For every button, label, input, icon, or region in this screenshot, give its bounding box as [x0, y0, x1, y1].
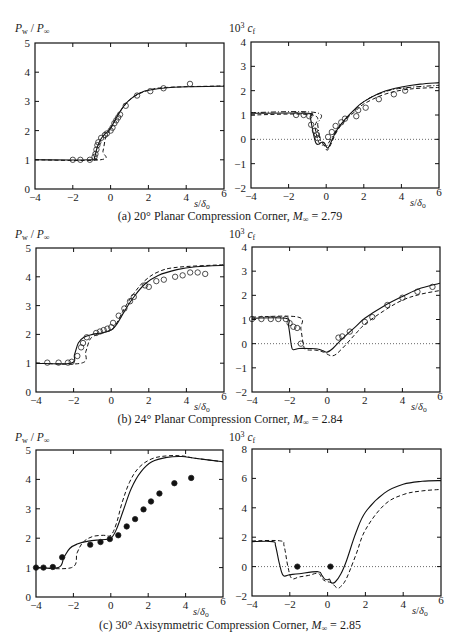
- y-tick-label: 2: [242, 531, 248, 543]
- data-point: [203, 271, 208, 276]
- x-tick-label: 0: [325, 598, 331, 610]
- x-tick-label: 6: [437, 390, 443, 402]
- x-tick-label: 4: [400, 394, 406, 406]
- y-tick-label: 3: [25, 95, 31, 107]
- caption-a: (a) 20° Planar Compression Corner, M∞ = …: [0, 209, 460, 224]
- y-tick-label: 2: [241, 85, 247, 97]
- x-tick-label: 6: [220, 595, 226, 607]
- axes-frame: [251, 42, 439, 188]
- y-tick-label: 4: [242, 241, 248, 253]
- data-point: [141, 507, 146, 512]
- experiment-markers: [295, 564, 333, 569]
- x-tick-label: 2: [361, 190, 367, 202]
- data-point: [295, 564, 300, 569]
- chart-panel-a-friction: −4−20246−2−101234: [234, 36, 442, 202]
- y-tick-label: 3: [26, 300, 32, 312]
- chart-panel-a-pressure: −4−20246012345: [25, 37, 228, 203]
- data-point: [354, 114, 359, 119]
- data-point: [154, 278, 159, 283]
- x-tick-label: 4: [183, 191, 189, 203]
- y-tick-label: 5: [26, 444, 32, 456]
- chart-panel-c-pressure: −4−20246012345: [26, 444, 227, 611]
- x-tick-label: 4: [399, 190, 405, 202]
- ylabel-pressure-b: Pw / P∞: [15, 228, 50, 240]
- x-tick-label: −4: [246, 598, 258, 610]
- figure-canvas: −4−20246012345−4−20246−2−101234−4−202460…: [0, 0, 460, 641]
- data-point: [291, 324, 296, 329]
- series-line-solid: [35, 86, 224, 160]
- data-point: [148, 499, 153, 504]
- y-tick-label: 2: [26, 532, 32, 544]
- x-tick-label: 4: [400, 598, 406, 610]
- x-tick-label: 0: [108, 599, 114, 611]
- data-point: [333, 123, 338, 128]
- x-tick-label: 2: [145, 599, 151, 611]
- xlabel-c-right: s/δo: [412, 605, 428, 617]
- y-tick-label: 4: [25, 66, 31, 78]
- y-tick-label: 3: [242, 265, 248, 277]
- data-point: [325, 134, 330, 139]
- xlabel-a-right: s/δo: [410, 197, 426, 209]
- data-point: [294, 325, 299, 330]
- x-tick-label: 6: [221, 390, 227, 402]
- ylabel-pressure-a: Pw / P∞: [15, 22, 50, 34]
- data-point: [187, 81, 192, 86]
- x-tick-label: 0: [108, 191, 114, 203]
- y-tick-label: 0: [25, 183, 31, 195]
- x-tick-label: 4: [184, 394, 190, 406]
- x-tick-label: −2: [284, 394, 296, 406]
- x-tick-label: 6: [438, 594, 444, 606]
- series-line-solid: [36, 456, 223, 568]
- x-tick-label: −2: [283, 190, 295, 202]
- data-point: [172, 274, 177, 279]
- x-tick-label: −2: [67, 191, 79, 203]
- data-point: [75, 353, 80, 358]
- x-tick-label: −2: [68, 394, 80, 406]
- experiment-markers: [249, 284, 435, 346]
- xlabel-c-left: s/δo: [193, 606, 209, 618]
- data-point: [161, 277, 166, 282]
- chart-panel-c-friction: −4−20246−202468: [235, 443, 444, 610]
- x-tick-label: 2: [146, 191, 152, 203]
- y-tick-label: 2: [26, 328, 32, 340]
- series-line-solid: [252, 283, 440, 352]
- y-tick-label: 5: [25, 37, 31, 49]
- x-tick-label: 0: [108, 394, 114, 406]
- data-point: [391, 92, 396, 97]
- y-tick-label: 1: [241, 109, 247, 121]
- chart-panel-b-pressure: −4−20246012345: [26, 242, 228, 406]
- series-line-solid: [251, 83, 439, 149]
- data-point: [195, 270, 200, 275]
- y-tick-label: 1: [26, 562, 32, 574]
- axes-frame: [252, 247, 440, 392]
- y-tick-label: 4: [241, 36, 247, 48]
- x-tick-label: 2: [146, 394, 152, 406]
- x-tick-label: −4: [30, 394, 42, 406]
- x-tick-label: 6: [221, 187, 227, 199]
- data-point: [45, 360, 50, 365]
- y-tick-label: 3: [26, 503, 32, 515]
- data-point: [180, 273, 185, 278]
- experiment-markers: [70, 81, 193, 162]
- axes-frame: [252, 449, 441, 596]
- data-point: [276, 316, 281, 321]
- y-tick-label: 0: [26, 386, 32, 398]
- series-line-dashed: [36, 456, 223, 569]
- data-point: [132, 516, 137, 521]
- x-tick-label: 4: [183, 599, 189, 611]
- x-tick-label: 2: [362, 394, 368, 406]
- y-tick-label: 4: [26, 473, 32, 485]
- data-point: [187, 270, 192, 275]
- data-point: [65, 360, 70, 365]
- ylabel-friction-b: 103 cf: [229, 228, 255, 240]
- data-point: [329, 129, 334, 134]
- series-line-solid: [252, 481, 441, 584]
- data-point: [268, 316, 273, 321]
- axes-frame: [35, 43, 224, 189]
- data-point: [315, 135, 320, 140]
- ylabel-friction-c: 103 cf: [229, 431, 255, 443]
- data-point: [336, 335, 341, 340]
- x-tick-label: 0: [323, 190, 329, 202]
- x-tick-label: 6: [436, 186, 442, 198]
- x-tick-label: −4: [30, 599, 42, 611]
